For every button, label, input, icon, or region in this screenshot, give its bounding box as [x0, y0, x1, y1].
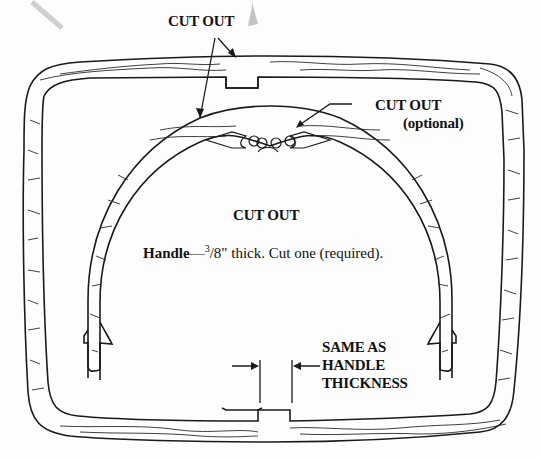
handle-grain [90, 126, 450, 352]
fraction-numerator: 3 [205, 243, 210, 254]
label-cutout-optional-line2: (optional) [375, 114, 464, 132]
label-same-as-line1: SAME AS [322, 338, 408, 356]
handle-description: thick. Cut one (required). [227, 245, 383, 261]
label-same-as-line2: HANDLE [322, 356, 408, 374]
label-cutout-center: CUT OUT [233, 207, 299, 224]
frame-notches [222, 77, 262, 410]
label-same-as-line3: THICKNESS [322, 374, 408, 392]
pattern-drawing [0, 0, 540, 459]
handle-thickness-fraction: 3/8" [205, 245, 228, 261]
label-same-as-thickness: SAME AS HANDLE THICKNESS [322, 338, 408, 392]
handle-caption: Handle—3/8" thick. Cut one (required). [143, 245, 383, 262]
scan-smudge [248, 2, 258, 26]
label-cutout-top: CUT OUT [168, 13, 234, 30]
handle-dash: — [190, 245, 205, 261]
scan-smudge [32, 2, 62, 28]
handle-name: Handle [143, 245, 190, 261]
label-cutout-optional-line1: CUT OUT [375, 96, 464, 114]
fraction-denominator: /8" [210, 245, 228, 261]
label-cutout-optional: CUT OUT (optional) [375, 96, 464, 132]
